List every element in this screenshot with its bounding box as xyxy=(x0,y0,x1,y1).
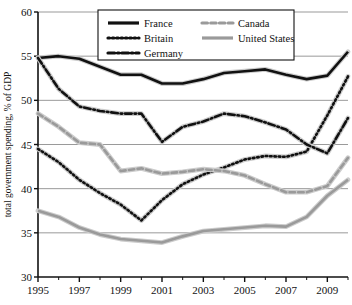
legend-label-united-states: United States xyxy=(238,33,294,44)
x-tick-label: 2007 xyxy=(275,284,298,296)
legend-label-britain: Britain xyxy=(144,33,174,44)
x-tick-label: 2005 xyxy=(234,284,257,296)
legend-label-germany: Germany xyxy=(144,48,184,59)
y-axis-ticks: 30354045505560 xyxy=(21,6,38,283)
chart-container: 3035404550556019951997199920012003200520… xyxy=(0,0,352,305)
y-axis-title: total government spending, % of GDP xyxy=(3,72,13,218)
y-tick-label: 55 xyxy=(21,50,33,62)
y-tick-label: 40 xyxy=(21,183,33,195)
y-tick-label: 35 xyxy=(21,227,33,239)
x-tick-label: 1997 xyxy=(68,284,91,296)
y-tick-label: 60 xyxy=(21,6,33,18)
y-tick-label: 45 xyxy=(21,139,33,151)
line-chart: 3035404550556019951997199920012003200520… xyxy=(0,0,352,305)
x-tick-label: 2001 xyxy=(151,284,173,296)
legend: FranceBritainGermanyCanadaUnited States xyxy=(98,10,294,60)
x-axis-ticks: 19951997199920012003200520072009 xyxy=(27,277,348,296)
legend-label-france: France xyxy=(144,18,173,29)
y-tick-label: 50 xyxy=(21,94,33,106)
legend-label-canada: Canada xyxy=(238,18,270,29)
x-tick-label: 1999 xyxy=(110,284,133,296)
x-tick-label: 1995 xyxy=(27,284,50,296)
y-tick-label: 30 xyxy=(21,271,33,283)
x-tick-label: 2003 xyxy=(192,284,215,296)
x-tick-label: 2009 xyxy=(316,284,339,296)
